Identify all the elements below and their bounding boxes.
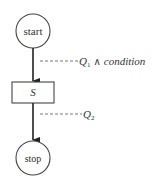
annotation-2-label: Q2 [83,108,95,122]
flowchart: start Q1∧condition S Q2 stop [0,0,160,182]
annotation-1-label: Q1∧condition [79,55,146,69]
statement-node: S [12,82,54,103]
start-node: start [16,14,50,48]
statement-label: S [30,86,36,98]
stop-label: stop [25,153,42,164]
start-label: start [24,25,43,37]
stop-node: stop [16,141,50,175]
